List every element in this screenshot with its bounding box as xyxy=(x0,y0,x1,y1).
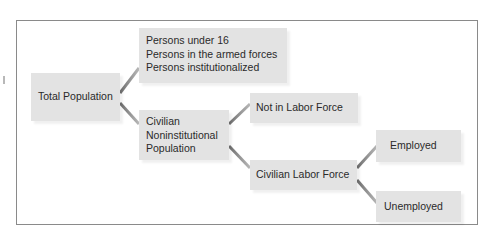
node-civilian-noninstitutional: Civilian Noninstitutional Population xyxy=(139,110,229,160)
node-line: Noninstitutional xyxy=(146,129,229,143)
node-label: Total Population xyxy=(38,90,120,104)
node-unemployed: Unemployed xyxy=(376,191,461,222)
node-employed: Employed xyxy=(376,130,461,162)
node-label: Employed xyxy=(390,139,461,153)
connector-total-to-civilian xyxy=(120,103,139,124)
node-line: Persons institutionalized xyxy=(146,61,287,75)
connector-total-to-excluded xyxy=(120,68,139,93)
node-excluded-persons: Persons under 16 Persons in the armed fo… xyxy=(139,28,287,83)
node-line: Civilian xyxy=(146,115,229,129)
node-line: Persons in the armed forces xyxy=(146,48,287,62)
node-label: Not in Labor Force xyxy=(256,101,358,115)
connector-civilian-to-notlabor xyxy=(229,104,250,124)
node-civilian-labor-force: Civilian Labor Force xyxy=(250,160,357,190)
connector-civilian-to-laborforce xyxy=(229,146,250,168)
node-label: Civilian Labor Force xyxy=(256,168,357,182)
node-label: Unemployed xyxy=(384,200,461,214)
connector-laborforce-to-unemployed xyxy=(357,180,377,203)
node-line: Persons under 16 xyxy=(146,34,287,48)
node-not-in-labor-force: Not in Labor Force xyxy=(250,93,358,123)
connector-laborforce-to-employed xyxy=(357,146,377,168)
node-total-population: Total Population xyxy=(31,73,120,121)
node-line: Population xyxy=(146,142,229,156)
